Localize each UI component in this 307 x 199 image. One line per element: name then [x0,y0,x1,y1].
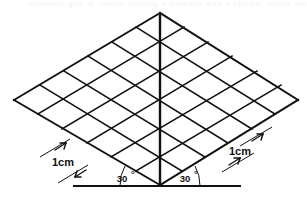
dimension-label-left: 1cm [52,156,74,168]
dimension-extension-line [240,127,272,146]
caption-ghost: Isometric grid of rhombi forming a diamo… [28,0,307,7]
figure-root: Isometric grid of rhombi forming a diamo… [0,0,307,199]
angle-label-right-value: 30 [180,173,191,184]
angle-label-left-value: 30 [117,173,128,184]
isometric-grid-figure: 30 ° 30 ° 1cm [0,0,307,199]
dimension-arrow-icon-lower [229,158,240,165]
dimension-arrow-icon-lower [75,170,86,177]
degree-symbol-icon-right: ° [194,168,198,179]
dimension-left-group: 1cm [40,139,88,183]
dimension-extension-line [40,139,70,157]
dimension-right-group: 1cm [222,127,272,172]
dimension-label-right: 1cm [229,145,251,157]
degree-symbol-icon-left: ° [131,168,135,179]
